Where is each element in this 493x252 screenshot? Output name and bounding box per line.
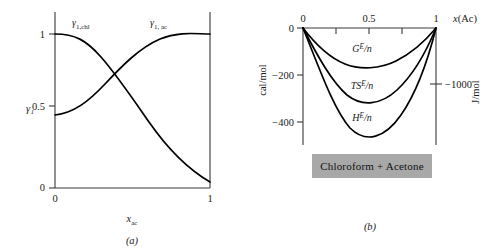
panel-b-curve-label-h-tail: /n <box>363 112 372 123</box>
panel-b-ytick-label-200: −200 <box>272 70 294 81</box>
panel-b-caption: (b) <box>364 221 377 233</box>
panel-a-curve-label-chl: γ1,chl <box>72 17 90 31</box>
panel-b-right-ytick-label-1000: −1000 <box>445 79 472 90</box>
panel-b-curve-ts <box>303 28 436 103</box>
panel-b-ytick-label-0: 0 <box>289 23 294 34</box>
panel-b-right-axis-unit: J/mol <box>470 80 481 103</box>
panel-a-xtick-label-1: 1 <box>207 193 212 204</box>
panel-a-curve-gamma-ac <box>55 33 210 115</box>
panel-b-x-axis-title-paren: (Ac) <box>458 13 478 25</box>
panel-a-curve-label-ac: γ1, ac <box>150 17 167 31</box>
panel-b-curve-label-g-tail: /n <box>363 43 372 54</box>
panel-b: 0 0.5 1 x(Ac) 0 −200 −400 −1000 cal/mol … <box>250 0 493 252</box>
panel-a-plot: 0 0.5 1 0 1 γ₁ xac γ1,chl γ1, ac <box>0 0 250 252</box>
panel-a-caption: (a) <box>126 235 139 247</box>
panel-b-curve-label-g: GE/n <box>352 43 371 55</box>
panel-a: 0 0.5 1 0 1 γ₁ xac γ1,chl γ1, ac <box>0 0 250 252</box>
panel-b-ytick-label-400: −400 <box>272 117 294 128</box>
panel-b-curve-label-ts-tail: /n <box>365 80 374 91</box>
panel-b-xtick-label-1: 1 <box>433 13 438 24</box>
panel-a-ytick-label-0: 0 <box>40 182 45 193</box>
panel-a-x-axis-title-sub: ac <box>131 219 137 227</box>
panel-a-y-axis-title: γ₁ <box>26 103 34 114</box>
panel-b-curve-label-h: HE/n <box>351 112 371 124</box>
panel-a-curve-label-chl-sub: 1,chl <box>76 23 90 31</box>
panel-b-plot: 0 0.5 1 x(Ac) 0 −200 −400 −1000 cal/mol … <box>250 0 493 252</box>
panel-b-callout-label: Chloroform + Acetone <box>320 160 424 172</box>
figure-root: 0 0.5 1 0 1 γ₁ xac γ1,chl γ1, ac <box>0 0 493 252</box>
panel-a-xtick-label-0: 0 <box>52 193 57 204</box>
panel-b-curve-label-ts: TSE/n <box>351 80 374 92</box>
panel-a-ytick-label-1: 1 <box>40 29 45 40</box>
panel-b-curve-label-ts-base: TS <box>351 80 362 91</box>
panel-b-callout-box: Chloroform + Acetone <box>312 154 432 178</box>
panel-b-curve-label-g-base: G <box>352 43 359 54</box>
panel-b-left-axis-unit: cal/mol <box>257 64 268 96</box>
panel-b-xtick-label-0: 0 <box>300 13 305 24</box>
panel-b-x-axis-title: x(Ac) <box>452 13 477 25</box>
panel-b-xtick-label-05: 0.5 <box>362 13 375 24</box>
panel-a-curve-label-ac-sub: 1, ac <box>154 23 167 31</box>
panel-a-x-axis-title: xac <box>126 213 138 227</box>
